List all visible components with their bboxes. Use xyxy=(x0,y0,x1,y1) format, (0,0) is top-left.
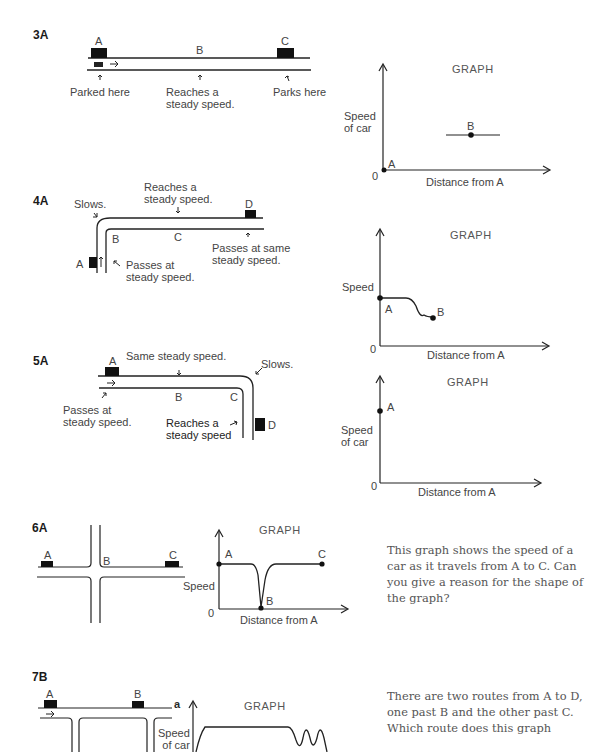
graph-title-7b: GRAPH xyxy=(244,700,286,712)
road-diagram-5a xyxy=(0,0,595,752)
graph-7b xyxy=(0,0,595,752)
annotation-passes-steady-5a: Passes at steady speed. xyxy=(63,404,132,428)
y-axis-label-5a: Speed of car xyxy=(341,424,373,448)
graph-point-a-6a: A xyxy=(225,548,232,560)
point-c-label: C xyxy=(281,35,289,47)
graph-5a xyxy=(0,0,595,752)
y-axis-label-7b: Speed of car xyxy=(158,727,190,751)
annotation-same-steady-5a: Same steady speed. xyxy=(126,350,226,362)
question-label-3a: 3A xyxy=(33,28,48,42)
question-text-7b: There are two routes from A to D, one pa… xyxy=(387,688,587,736)
y-axis-label-3a: Speed of car xyxy=(344,110,376,134)
point-c-label-6a: C xyxy=(169,549,177,561)
point-a-label-4a: A xyxy=(76,258,83,270)
annotation-parked-here: Parked here xyxy=(70,86,130,98)
point-a-label-6a: A xyxy=(44,549,51,561)
point-d-label-4a: D xyxy=(245,198,253,210)
question-label-5a: 5A xyxy=(33,354,48,368)
graph-title-3a: GRAPH xyxy=(452,63,494,75)
point-b-label-7b: B xyxy=(134,688,141,700)
origin-label-4a: 0 xyxy=(370,343,376,355)
annotation-reaches-steady-4a: Reaches a steady speed. xyxy=(144,181,213,205)
point-c-label-5a: C xyxy=(230,391,238,403)
x-axis-label-5a: Distance from A xyxy=(418,486,496,498)
graph-title-6a: GRAPH xyxy=(259,524,301,536)
annotation-reaches-steady-5a: Reaches a steady speed xyxy=(166,417,231,441)
question-label-7b: 7B xyxy=(32,670,47,684)
graph-point-a-3a: A xyxy=(388,158,395,170)
point-c-label-4a: C xyxy=(174,231,182,243)
origin-label-3a: 0 xyxy=(372,170,378,182)
road-diagram-6a xyxy=(0,0,595,752)
graph-point-c-6a: C xyxy=(318,548,326,560)
question-label-6a: 6A xyxy=(32,521,47,535)
x-axis-label-3a: Distance from A xyxy=(426,176,504,188)
road-diagram-4a xyxy=(0,0,595,752)
road-diagram-3a xyxy=(0,0,595,752)
question-label-4a: 4A xyxy=(33,194,48,208)
point-a-label: A xyxy=(95,35,102,47)
annotation-passes-steady-4a: Passes at steady speed. xyxy=(126,259,195,283)
point-b-label-5a: B xyxy=(175,391,182,403)
point-a-label-5a: A xyxy=(109,355,116,367)
annotation-reaches-steady: Reaches a steady speed. xyxy=(166,86,235,110)
origin-label-5a: 0 xyxy=(371,480,377,492)
graph-point-a-5a: A xyxy=(387,401,394,413)
point-b-label-4a: B xyxy=(112,233,119,245)
graph-panel-label-7b: a xyxy=(174,698,180,710)
graph-title-5a: GRAPH xyxy=(447,376,489,388)
road-diagram-7b xyxy=(0,0,595,752)
graph-point-b-3a: B xyxy=(467,120,474,132)
point-a-label-7b: A xyxy=(46,688,53,700)
graph-point-b-6a: B xyxy=(266,595,273,607)
point-b-label-6a: B xyxy=(103,555,110,567)
annotation-slows-4a: Slows. xyxy=(74,198,106,210)
x-axis-label-6a: Distance from A xyxy=(240,614,318,626)
origin-label-6a: 0 xyxy=(208,607,214,619)
x-axis-label-4a: Distance from A xyxy=(427,349,505,361)
graph-4a xyxy=(0,0,595,752)
annotation-parks-here: Parks here xyxy=(273,86,326,98)
point-d-label-5a: D xyxy=(268,419,276,431)
question-text-6a: This graph shows the speed of a car as i… xyxy=(387,542,587,606)
y-axis-label-4a: Speed xyxy=(342,281,374,293)
annotation-passes-same-4a: Passes at same steady speed. xyxy=(212,242,290,266)
graph-title-4a: GRAPH xyxy=(450,229,492,241)
graph-point-a-4a: A xyxy=(385,303,392,315)
annotation-slows-5a: Slows. xyxy=(261,358,293,370)
y-axis-label-6a: Speed xyxy=(183,580,215,592)
graph-3a xyxy=(0,0,595,752)
graph-point-b-4a: B xyxy=(437,306,444,318)
graph-6a xyxy=(0,0,595,752)
point-b-label: B xyxy=(196,44,203,56)
